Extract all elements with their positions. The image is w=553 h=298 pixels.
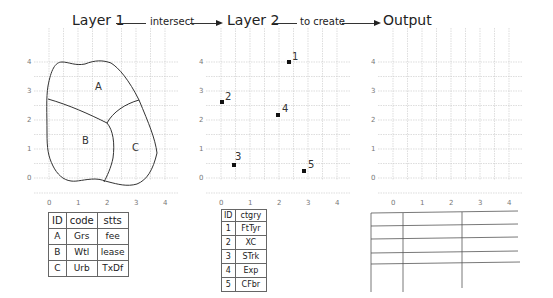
table-header: code	[66, 213, 97, 229]
cell: A	[49, 229, 67, 245]
cell: FtTyr	[235, 222, 267, 236]
point-label: 2	[225, 91, 231, 102]
table-row: 3STrk	[222, 250, 267, 264]
cell: C	[49, 261, 67, 277]
output-table	[371, 211, 520, 292]
layer2-map: 1 2 3 4 5	[199, 28, 351, 207]
table-row: A Grs fee	[49, 229, 129, 245]
cell: 5	[222, 278, 236, 292]
point-label: 1	[292, 51, 298, 62]
point-label: 4	[282, 103, 288, 114]
cell: 4	[222, 264, 236, 278]
polygon-label-a: A	[95, 81, 102, 92]
output-map	[371, 28, 523, 207]
table-header: ID	[222, 210, 236, 222]
cell: Urb	[66, 261, 97, 277]
table-header: stts	[97, 213, 128, 229]
cell: 3	[222, 250, 236, 264]
cell: 1	[222, 222, 236, 236]
cell: TxDf	[97, 261, 128, 277]
layer1-attribute-table: ID code stts A Grs fee B Wtl lease C Urb…	[48, 212, 129, 277]
table-row: 5CFbr	[222, 278, 267, 292]
point-label: 3	[235, 151, 241, 162]
layer2-attribute-table: ID ctgry 1FtTyr 2XC 3STrk 4Exp 5CFbr	[221, 209, 267, 292]
cell: XC	[235, 236, 267, 250]
table-row: 1FtTyr	[222, 222, 267, 236]
table-header: ctgry	[235, 210, 267, 222]
cell: Grs	[66, 229, 97, 245]
cell: CFbr	[235, 278, 267, 292]
table-header: ID	[49, 213, 67, 229]
cell: B	[49, 245, 67, 261]
table-row: 2XC	[222, 236, 267, 250]
point-label: 5	[308, 159, 314, 170]
cell: Wtl	[66, 245, 97, 261]
cell: Exp	[235, 264, 267, 278]
table-row: C Urb TxDf	[49, 261, 129, 277]
cell: lease	[97, 245, 128, 261]
cell: 2	[222, 236, 236, 250]
table-row: B Wtl lease	[49, 245, 129, 261]
cell: STrk	[235, 250, 267, 264]
cell: fee	[97, 229, 128, 245]
polygon-label-c: C	[132, 142, 139, 153]
polygon-label-b: B	[82, 135, 89, 146]
layer1-map: A B C	[27, 28, 179, 207]
table-row: 4Exp	[222, 264, 267, 278]
